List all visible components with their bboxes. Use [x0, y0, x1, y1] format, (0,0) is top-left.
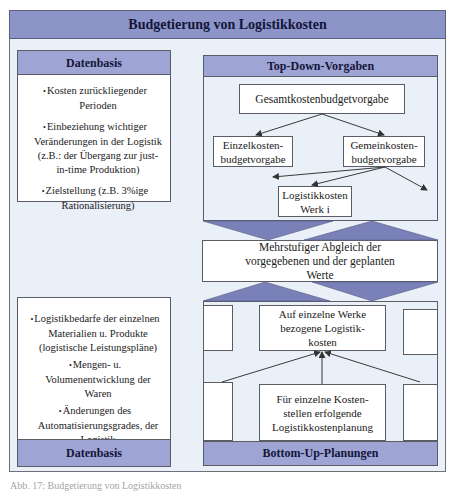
- top-down-arrows: [256, 114, 427, 190]
- figure-caption: Abb. 17: Budgetierung von Logistikkosten: [10, 480, 181, 491]
- flow-triangles-upper: [203, 221, 438, 240]
- bottom-up-arrows: [222, 352, 420, 384]
- flow-triangles-lower: [203, 282, 438, 301]
